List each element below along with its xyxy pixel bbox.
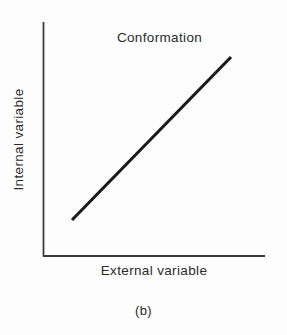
figure-panel-b: Conformation Internal variable External … [0, 0, 287, 335]
chart-title: Conformation [0, 30, 287, 45]
y-axis-label-container: Internal variable [0, 22, 36, 256]
x-axis-label: External variable [43, 263, 265, 278]
y-axis-label: Internal variable [11, 88, 26, 190]
data-line-conformation [72, 57, 231, 220]
figure-caption: (b) [0, 303, 287, 318]
